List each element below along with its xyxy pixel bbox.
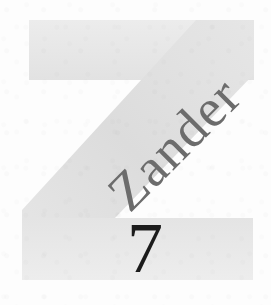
chapter-opening-page: Zander 7 <box>0 0 271 305</box>
chapter-number: 7 <box>112 212 178 284</box>
